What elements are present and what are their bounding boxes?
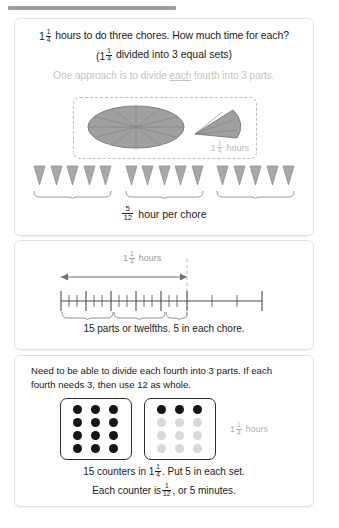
- counter-dot-empty: [175, 418, 184, 427]
- caption-prefix: 15 counters in 1: [83, 466, 154, 477]
- counter-row: [145, 418, 215, 427]
- numerator: 5: [125, 205, 131, 213]
- unit-label: hours: [226, 143, 249, 153]
- counter-dot: [91, 431, 100, 440]
- counter-dot: [193, 405, 202, 414]
- result-text: hour per chore: [138, 208, 206, 220]
- fraction-one-fourth: 1 4: [217, 141, 223, 155]
- triangle-icon: [33, 165, 46, 186]
- number-line-wrap: 1 1 4 hours: [15, 245, 313, 345]
- counter-dot: [109, 431, 118, 440]
- fraction-one-fourth: 1 4: [155, 464, 161, 478]
- counters-caption-2: Each counter is 1 12 , or 5 minutes.: [15, 483, 313, 497]
- mixed-number-label: 1 1 4: [211, 141, 224, 155]
- triangle-set: [216, 165, 295, 186]
- whole-part: 1: [211, 143, 216, 153]
- counter-box-left: [60, 398, 132, 460]
- group-brace: [125, 190, 204, 199]
- counter-dot: [91, 405, 100, 414]
- denominator: 12: [122, 213, 133, 222]
- counter-dot: [73, 431, 82, 440]
- triangle-icon: [233, 165, 246, 186]
- counter-dot: [109, 418, 118, 427]
- panel-pie-and-triangles: 1 1 4 hours to do three chores. How much…: [14, 18, 314, 236]
- counter-row: [61, 405, 131, 414]
- counter-box-right: [144, 398, 216, 460]
- counter-dot: [73, 444, 82, 453]
- counter-dot-empty: [157, 431, 166, 440]
- numerator: 1: [106, 48, 112, 55]
- approach-hint-emphasis: each: [170, 70, 192, 81]
- fraction-one-fourth: 1 4: [46, 29, 52, 43]
- caption-suffix: , or 5 minutes.: [172, 485, 235, 496]
- approach-hint-prefix: One approach is to divide: [53, 70, 169, 81]
- counter-dot-empty: [175, 444, 184, 453]
- counter-dot: [91, 444, 100, 453]
- numerator: 1: [164, 483, 170, 490]
- counter-dot: [73, 405, 82, 414]
- fraction-five-twelfths: 5 12: [122, 205, 133, 222]
- counter-row: [61, 444, 131, 453]
- counters-caption-1: 15 counters in 1 1 4 . Put 5 in each set…: [15, 464, 313, 478]
- denominator: 4: [106, 55, 112, 63]
- number-line-braces: [62, 312, 187, 320]
- triangle-icon: [66, 165, 79, 186]
- triangle-icon: [83, 165, 96, 186]
- unit-label: hours: [246, 424, 269, 434]
- mixed-number-one-and-quarter: 1 1 4: [39, 29, 52, 43]
- caption-prefix: Each counter is: [92, 485, 161, 496]
- whole-part: (1: [96, 50, 105, 62]
- number-line-caption: 15 parts or twelfths. 5 in each chore.: [15, 323, 313, 334]
- counter-dot: [91, 418, 100, 427]
- numerator: 1: [217, 141, 223, 148]
- mixed-number-label: 1 1 4: [230, 422, 243, 436]
- denominator: 4: [217, 147, 223, 155]
- denominator: 4: [155, 471, 161, 479]
- counter-row: [145, 405, 215, 414]
- triangle-icon: [174, 165, 187, 186]
- counter-row: [145, 431, 215, 440]
- counter-dot: [157, 405, 166, 414]
- triangle-group: [216, 165, 295, 199]
- counter-dot: [109, 405, 118, 414]
- counter-dot: [109, 444, 118, 453]
- whole-part: 1: [230, 424, 235, 434]
- triangle-set: [125, 165, 204, 186]
- triangle-icon: [141, 165, 154, 186]
- triangle-group: [33, 165, 112, 199]
- triangle-icon: [216, 165, 229, 186]
- triangle-icon: [282, 165, 295, 186]
- triangle-icon: [266, 165, 279, 186]
- counter-dot-empty: [193, 431, 202, 440]
- number-line-svg: [15, 245, 313, 323]
- denominator: 12: [162, 490, 171, 498]
- counters-row: 1 1 4 hours: [15, 396, 313, 462]
- counter-dot: [73, 418, 82, 427]
- counter-row: [145, 444, 215, 453]
- group-brace: [216, 190, 295, 199]
- counters-hours-label: 1 1 4 hours: [230, 422, 268, 436]
- caption-suffix: . Put 5 in each set.: [162, 466, 245, 477]
- triangle-icon: [249, 165, 262, 186]
- pie-hours-label: 1 1 4 hours: [211, 141, 249, 155]
- panel-counters: Need to be able to divide each fourth in…: [14, 355, 314, 507]
- restatement-text: divided into 3 equal sets): [116, 49, 232, 61]
- triangle-icon: [99, 165, 112, 186]
- triangle-icon: [50, 165, 63, 186]
- panel-number-line: 1 1 4 hours: [14, 240, 314, 350]
- numerator: 1: [46, 29, 52, 36]
- problem-statement-text: hours to do three chores. How much time …: [55, 29, 289, 41]
- problem-restatement-line: (1 1 4 divided into 3 equal sets): [15, 48, 313, 62]
- pie-diagram-box: 1 1 4 hours: [73, 97, 257, 159]
- counter-dot: [175, 405, 184, 414]
- group-brace: [33, 190, 112, 199]
- numerator: 1: [236, 422, 242, 429]
- counter-dot-empty: [157, 418, 166, 427]
- approach-hint-suffix: fourth into 3 parts.: [191, 70, 274, 81]
- denominator: 4: [236, 429, 242, 437]
- full-pie-twelfths: [88, 106, 184, 148]
- fraction-one-twelfth: 1 12: [162, 483, 171, 497]
- counters-instruction-text: Need to be able to divide each fourth in…: [31, 364, 299, 392]
- numerator: 1: [155, 464, 161, 471]
- counter-dot-empty: [175, 431, 184, 440]
